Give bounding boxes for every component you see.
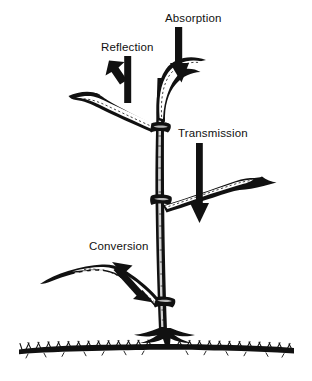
stem-node-upper xyxy=(150,122,171,133)
label-conversion: Conversion xyxy=(89,240,149,252)
stem-node-middle xyxy=(150,194,172,205)
transmission-arrow-shaft xyxy=(196,143,203,212)
label-transmission: Transmission xyxy=(178,127,248,139)
label-absorption: Absorption xyxy=(165,12,221,24)
diagram-canvas: Absorption Reflection Transmission Conve… xyxy=(0,0,312,381)
label-reflection: Reflection xyxy=(101,41,154,53)
radiation-interaction-diagram: Absorption Reflection Transmission Conve… xyxy=(0,0,312,381)
